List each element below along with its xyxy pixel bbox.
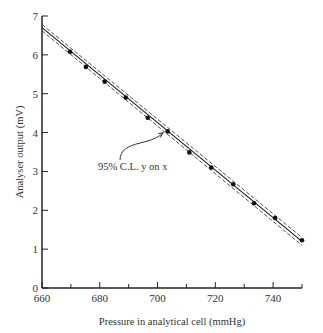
y-tick-label: 6 [33,49,39,61]
data-point [187,150,192,155]
data-point [165,129,170,134]
data-point [252,201,257,206]
annotation: 95% C.L. y on x [98,133,168,172]
data-point [123,95,128,100]
confidence-limit-line [42,31,302,245]
regression-lines [42,25,302,246]
annotation-label: 95% C.L. y on x [98,161,168,172]
data-point [273,216,278,221]
data-point [84,65,89,70]
y-tick-label: 2 [33,204,39,216]
data-point [68,49,73,54]
confidence-limit-line [42,25,302,238]
chart-canvas: 66068070072074001234567 95% C.L. y on x … [0,0,323,333]
annotation-arrow-icon [120,133,163,160]
y-tick-label: 1 [33,243,39,255]
data-point [209,165,214,170]
x-axis-title: Pressure in analytical cell (mmHg) [99,316,246,328]
y-tick-label: 3 [33,165,39,177]
x-tick-label: 720 [207,292,224,304]
y-axis-title: Analyser output (mV) [14,105,26,198]
x-tick-label: 680 [92,292,109,304]
data-point [102,79,107,84]
y-tick-label: 0 [33,282,39,294]
y-tick-label: 5 [33,88,39,100]
axes: 66068070072074001234567 [33,10,303,304]
data-point [300,238,305,243]
x-tick-label: 740 [265,292,282,304]
y-tick-label: 4 [33,127,39,139]
regression-line [42,28,302,242]
y-tick-label: 7 [33,10,39,22]
x-tick-label: 700 [149,292,166,304]
data-point [231,182,236,187]
data-point [145,116,150,121]
